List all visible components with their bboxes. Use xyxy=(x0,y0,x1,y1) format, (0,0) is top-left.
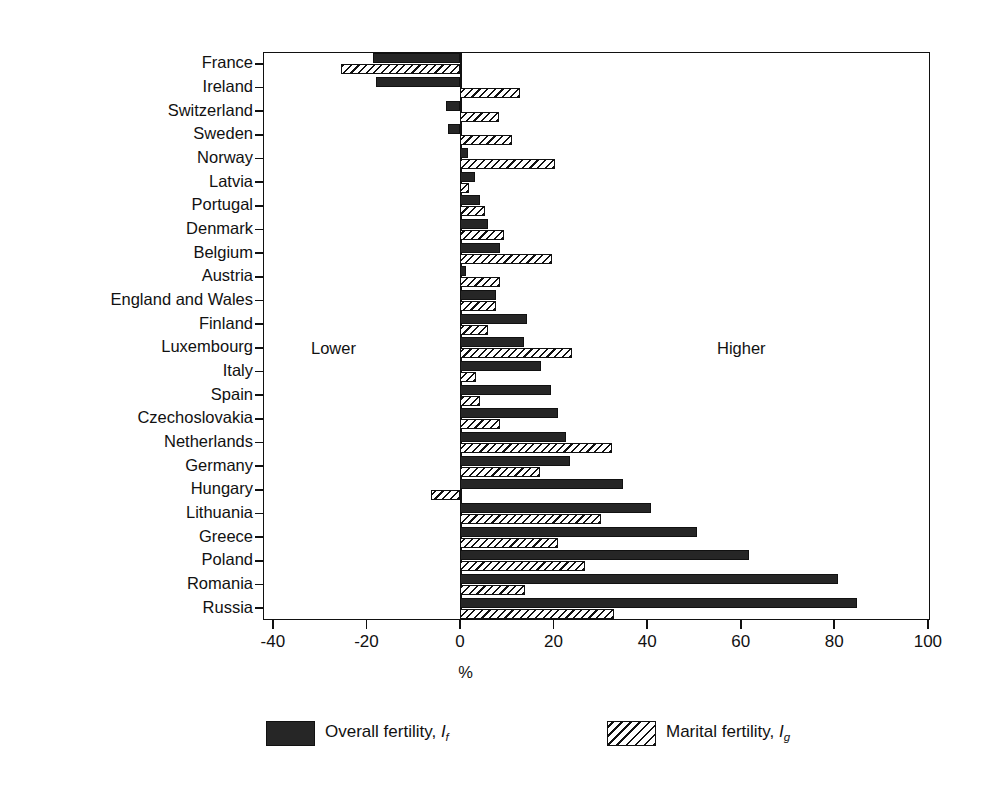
chart-legend: Overall fertility, If Marital fertility,… xyxy=(0,718,991,762)
x-axis-tick-label: -20 xyxy=(331,632,401,652)
legend-swatch-solid-icon xyxy=(266,721,315,746)
x-axis-tick-label: 20 xyxy=(519,632,589,652)
x-axis-tick xyxy=(553,620,555,629)
x-axis-tick xyxy=(927,620,929,629)
x-axis-tick xyxy=(366,620,368,629)
chart-canvas: FranceIrelandSwitzerlandSwedenNorwayLatv… xyxy=(0,0,991,802)
x-axis-tick-label: -40 xyxy=(238,632,308,652)
legend-label-overall-fertility: Overall fertility, If xyxy=(325,722,449,743)
x-axis-tick xyxy=(833,620,835,629)
x-axis-tick xyxy=(272,620,274,629)
legend-label-marital-text: Marital fertility, xyxy=(666,722,779,741)
x-axis-tick-label: 0 xyxy=(425,632,495,652)
legend-swatch-hatched-icon xyxy=(607,721,656,746)
annotation-lower: Lower xyxy=(311,339,356,358)
legend-item-marital-fertility: Marital fertility, Ig xyxy=(607,718,790,748)
x-axis-tick-label: 60 xyxy=(706,632,776,652)
x-axis-tick-label: 80 xyxy=(799,632,869,652)
legend-subscript-f: f xyxy=(446,732,449,744)
legend-label-overall-text: Overall fertility, xyxy=(325,722,441,741)
legend-subscript-g: g xyxy=(784,732,790,744)
legend-item-overall-fertility: Overall fertility, If xyxy=(266,718,449,748)
x-axis-tick xyxy=(646,620,648,629)
x-axis-tick xyxy=(740,620,742,629)
x-axis-tick-label: 40 xyxy=(612,632,682,652)
x-axis-tick-label: 100 xyxy=(893,632,963,652)
x-axis-title-text: % xyxy=(458,663,473,682)
annotation-higher: Higher xyxy=(717,339,766,358)
x-axis-tick xyxy=(459,620,461,629)
legend-label-marital-fertility: Marital fertility, Ig xyxy=(666,722,790,743)
x-axis-title: % xyxy=(0,663,991,682)
